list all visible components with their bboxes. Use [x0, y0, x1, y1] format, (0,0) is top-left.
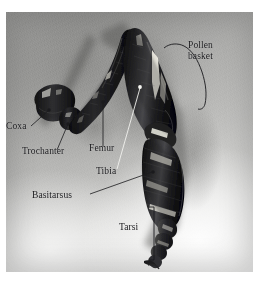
label-tibia: Tibia	[96, 166, 116, 177]
label-tarsi: Tarsi	[119, 222, 138, 233]
figure-container: Coxa Trochanter Femur Tibia Basitarsus T…	[0, 0, 259, 281]
label-femur: Femur	[89, 143, 114, 154]
label-pollen-basket: Pollen basket	[188, 40, 213, 61]
label-trochanter: Trochanter	[22, 146, 64, 157]
specimen-photograph	[6, 12, 253, 272]
label-coxa: Coxa	[6, 121, 26, 132]
photo-vignette	[6, 12, 253, 272]
label-basitarsus: Basitarsus	[32, 190, 72, 201]
